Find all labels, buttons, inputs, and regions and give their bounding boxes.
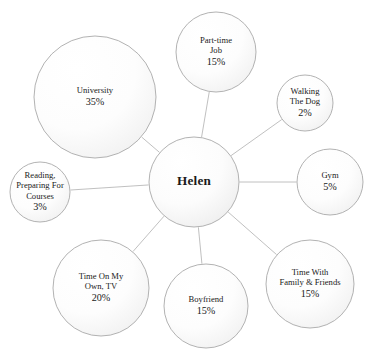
bubble-diagram: University35%Part-timeJob15%WalkingThe D… <box>0 0 377 358</box>
bubble-gym[interactable]: Gym5% <box>297 149 363 215</box>
bubble-label-line: Part-time <box>200 35 232 45</box>
bubble-time-on-my-own-tv[interactable]: Time On MyOwn, TV20% <box>53 240 149 336</box>
bubble-value: 15% <box>197 305 216 316</box>
bubble-label-line: Preparing For <box>16 180 64 190</box>
connector-time-on-my-own-tv <box>133 216 164 251</box>
bubble-walking-the-dog[interactable]: WalkingThe Dog2% <box>277 75 333 131</box>
connector-reading-preparing-for-courses <box>70 185 148 190</box>
bubble-value: 20% <box>92 292 111 303</box>
connector-boyfriend <box>198 227 202 263</box>
bubble-label-line: Time With <box>292 267 329 277</box>
connector-university <box>142 137 160 152</box>
bubble-boyfriend[interactable]: Boyfriend15% <box>164 264 248 348</box>
center-node[interactable]: Helen <box>149 137 239 227</box>
bubble-part-time-job[interactable]: Part-timeJob15% <box>176 12 256 92</box>
bubble-label-line: Gym <box>321 170 339 180</box>
center-label: Helen <box>177 173 211 188</box>
bubble-label-line: Courses <box>26 191 54 201</box>
bubble-label-line: The Dog <box>290 96 321 106</box>
bubble-value: 3% <box>33 201 47 212</box>
bubble-value: 5% <box>323 181 337 192</box>
bubble-label-line: Walking <box>291 86 321 96</box>
bubble-label-line: Boyfriend <box>189 294 225 304</box>
diagram-canvas: University35%Part-timeJob15%WalkingThe D… <box>0 0 377 358</box>
bubble-label-line: Job <box>210 45 222 55</box>
bubble-label-line: Reading, <box>25 170 56 180</box>
bubble-helen[interactable]: Helen <box>149 137 239 227</box>
bubble-university[interactable]: University35% <box>34 36 156 158</box>
bubble-value: 15% <box>301 288 320 299</box>
bubble-value: 2% <box>298 107 312 118</box>
bubble-label-line: University <box>77 85 114 95</box>
connector-part-time-job <box>202 92 210 137</box>
bubble-label-line: Family & Friends <box>279 277 341 287</box>
bubble-reading-preparing-for-courses[interactable]: Reading,Preparing ForCourses3% <box>10 162 70 222</box>
bubble-label-line: Time On My <box>79 271 124 281</box>
connector-time-with-family-friends <box>228 212 276 255</box>
bubble-value: 35% <box>86 96 105 107</box>
connector-walking-the-dog <box>231 120 282 156</box>
bubble-value: 15% <box>207 56 226 67</box>
bubble-time-with-family-friends[interactable]: Time WithFamily & Friends15% <box>266 240 354 328</box>
bubble-label-line: Own, TV <box>85 281 118 291</box>
